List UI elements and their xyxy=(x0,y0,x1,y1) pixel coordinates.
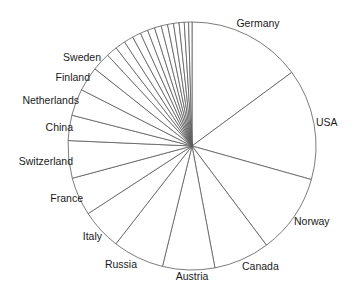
slice-label-switzerland: Switzerland xyxy=(19,155,73,167)
slice-label-usa: USA xyxy=(316,116,338,128)
pie-chart: GermanyUSANorwayCanadaAustriaRussiaItaly… xyxy=(0,0,353,299)
pie-slices xyxy=(68,22,316,270)
slice-label-norway: Norway xyxy=(294,215,330,227)
slice-label-austria: Austria xyxy=(176,270,209,282)
slice-label-netherlands: Netherlands xyxy=(22,94,79,106)
pie-chart-svg: GermanyUSANorwayCanadaAustriaRussiaItaly… xyxy=(0,0,353,299)
slice-label-canada: Canada xyxy=(242,260,279,272)
slice-label-germany: Germany xyxy=(236,17,280,29)
slice-label-france: France xyxy=(50,192,83,204)
slice-label-china: China xyxy=(46,121,74,133)
slice-label-russia: Russia xyxy=(105,258,137,270)
slice-label-finland: Finland xyxy=(56,71,91,83)
slice-label-sweden: Sweden xyxy=(63,51,101,63)
slice-label-italy: Italy xyxy=(83,230,103,242)
